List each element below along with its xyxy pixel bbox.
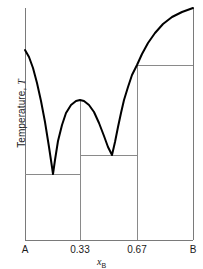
phase-diagram-figure: Temperature, T xB A0.330.67B [0, 0, 203, 269]
plot-area [0, 0, 203, 269]
liquidus-curve [25, 8, 193, 174]
compound-lines-group [80, 65, 137, 240]
x-tick-label-0.67: 0.67 [117, 244, 157, 255]
x-tick-label-B: B [173, 244, 203, 255]
x-tick-label-A: A [5, 244, 45, 255]
liquidus-curve-group [25, 8, 193, 174]
x-axis-label: xB [0, 256, 203, 269]
y-axis-label: Temperature, T [16, 49, 27, 179]
y-axis-label-text: Temperature, [16, 85, 27, 148]
x-axis-label-subscript: B [101, 262, 106, 269]
axis-frame [25, 8, 193, 240]
y-axis-label-symbol: T [16, 79, 27, 85]
x-tick-label-0.33: 0.33 [60, 244, 100, 255]
